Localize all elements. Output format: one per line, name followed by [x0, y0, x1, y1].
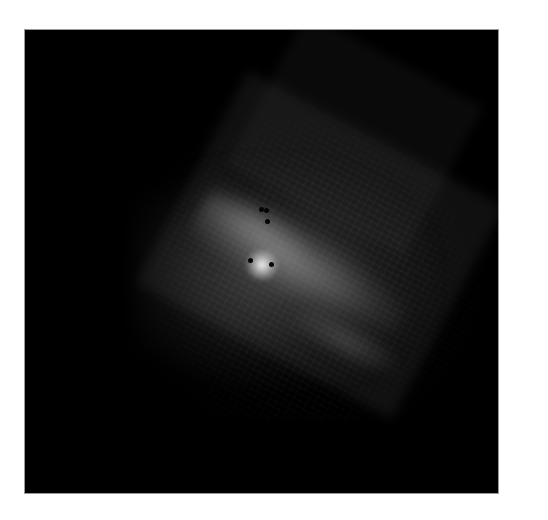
galaxy-image	[24, 29, 499, 494]
galaxy-arm-lower	[283, 294, 408, 386]
galaxy-halo	[135, 160, 435, 390]
noise-texture	[155, 90, 495, 420]
marker-dot	[248, 258, 253, 263]
mosaic-tile-main	[136, 71, 499, 419]
marker-dot	[265, 219, 270, 224]
marker-dot	[264, 208, 269, 213]
marker-dot	[269, 262, 274, 267]
galaxy-arm-upper	[193, 179, 318, 271]
galaxy-bar	[183, 177, 417, 353]
